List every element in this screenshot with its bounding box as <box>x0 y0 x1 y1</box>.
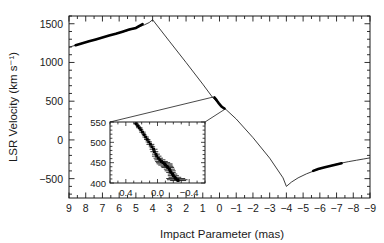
inset-y-tick-label: 550 <box>90 117 106 128</box>
lsr-velocity-vs-impact-parameter-plot: 9876543210−1−2−3−4−5−6−7−8−9 15001000500… <box>0 0 384 243</box>
y-tick-label: 1500 <box>40 18 64 30</box>
x-tick-label: −4 <box>280 202 292 214</box>
x-tick-label: 7 <box>100 202 106 214</box>
inset-data-point <box>141 131 144 134</box>
inset-y-tick-label: 500 <box>90 137 106 148</box>
inset-connector-right <box>205 109 225 122</box>
x-tick-label: 0 <box>217 202 223 214</box>
maser-spots-left-branch <box>76 24 143 45</box>
inset-data-point <box>177 179 180 182</box>
x-tick-label: −1 <box>230 202 242 214</box>
x-tick-label: −2 <box>247 202 259 214</box>
x-tick-label: 3 <box>166 202 172 214</box>
inset-y-tick-label: 450 <box>90 157 106 168</box>
inset-data-point <box>153 150 156 153</box>
y-tick-label: 0 <box>57 134 63 146</box>
y-axis-title: LSR Velocity (km s⁻¹) <box>7 52 19 162</box>
inset-x-tick-label: −0.4 <box>180 187 199 198</box>
x-tick-label: 5 <box>133 202 139 214</box>
x-tick-labels: 9876543210−1−2−3−4−5−6−7−8−9 <box>66 202 376 214</box>
maser-spots-origin-cluster <box>214 97 224 108</box>
inset-data-point <box>146 138 149 141</box>
x-tick-label: 2 <box>183 202 189 214</box>
inset-data-point <box>149 143 152 146</box>
x-tick-label: −6 <box>314 202 326 214</box>
x-tick-label: 1 <box>200 202 206 214</box>
y-tick-labels: 150010005000−500 <box>39 18 63 185</box>
x-tick-label: −8 <box>347 202 359 214</box>
x-tick-label: −9 <box>364 202 376 214</box>
inset-data-point <box>152 148 155 151</box>
inset-x-tick-label: 0.0 <box>151 187 164 198</box>
x-tick-label: −3 <box>264 202 276 214</box>
y-tick-label: 500 <box>45 95 63 107</box>
inset-data-point <box>143 133 146 136</box>
inset-y-tick-labels: 550500450400 <box>90 117 106 189</box>
inset-connector-left <box>110 97 214 122</box>
x-tick-label: −5 <box>297 202 309 214</box>
inset-data-point <box>139 128 142 131</box>
inset-x-tick-label: 0.4 <box>119 187 132 198</box>
y-tick-label: 1000 <box>40 56 64 68</box>
inset-axes-frame <box>110 122 205 183</box>
x-tick-label: 4 <box>150 202 156 214</box>
y-tick-label: −500 <box>39 173 63 185</box>
maser-spots-right-branch <box>313 163 341 171</box>
x-tick-label: 8 <box>83 202 89 214</box>
x-tick-label: −7 <box>331 202 343 214</box>
x-axis-title: Impact Parameter (mas) <box>160 228 284 240</box>
inset-y-tick-label: 400 <box>90 178 106 189</box>
figure-canvas: 9876543210−1−2−3−4−5−6−7−8−9 15001000500… <box>0 0 384 243</box>
inset-data-point <box>150 145 153 148</box>
inset-data-point <box>147 141 150 144</box>
inset-data-point <box>144 136 147 139</box>
inset-connector-lines <box>110 97 225 122</box>
inset-x-tick-labels: 0.40.0−0.4 <box>119 187 198 198</box>
x-tick-label: 9 <box>66 202 72 214</box>
x-tick-label: 6 <box>116 202 122 214</box>
model-curve-right-branch <box>286 158 370 187</box>
